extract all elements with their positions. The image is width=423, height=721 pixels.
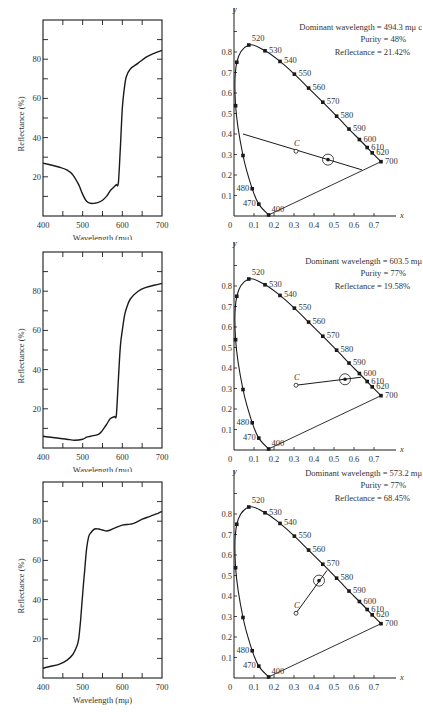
- wavelength-marker: [278, 522, 282, 526]
- reflectance-text: Reflectance = 21.42%: [335, 47, 410, 57]
- y-tick-label: 0.8: [221, 47, 232, 57]
- wavelength-label: 540: [284, 55, 297, 65]
- wavelength-marker: [365, 380, 369, 384]
- y-tick-label: 20: [33, 172, 42, 182]
- y-axis-title: Reflectance (%): [16, 328, 26, 383]
- wavelength-marker: [370, 151, 374, 155]
- y-tick-label: 0.7: [221, 302, 232, 312]
- wavelength-marker: [347, 361, 351, 365]
- wavelength-marker: [250, 649, 254, 653]
- y-tick-label: 20: [33, 404, 42, 414]
- wavelength-marker: [379, 622, 383, 626]
- reflectance-curve: [43, 511, 162, 668]
- wavelength-marker: [278, 294, 282, 298]
- purple-line: [269, 162, 381, 215]
- y-axis-label: y: [232, 4, 237, 14]
- wavelength-marker: [235, 522, 239, 526]
- dominant-wavelength-line: [296, 570, 327, 613]
- wavelength-marker: [321, 562, 325, 566]
- x-tick-label: 0.2: [269, 220, 280, 230]
- y-tick-label: 0.5: [221, 109, 232, 119]
- x-tick-label: 600: [116, 682, 129, 692]
- y-tick-label: 0.1: [221, 653, 232, 663]
- y-axis-title: Reflectance (%): [16, 96, 26, 151]
- y-axis-label: y: [232, 466, 237, 476]
- x-tick-label: 0.6: [349, 220, 360, 230]
- purity-text: Purity = 77%: [361, 480, 406, 490]
- wavelength-marker: [235, 60, 239, 64]
- dominant-wavelength-text: Dominant wavelength = 494.3 mμ c: [299, 22, 422, 32]
- x-tick-label: 500: [76, 682, 89, 692]
- y-tick-label: 0.7: [221, 530, 232, 540]
- wavelength-marker: [335, 114, 339, 118]
- wavelength-marker: [257, 436, 261, 440]
- y-axis-title: Reflectance (%): [16, 558, 26, 613]
- x-tick-label: 0.6: [349, 682, 360, 692]
- wavelength-label: 480: [236, 183, 249, 193]
- chromaticity-diagram-3-svg: yx00.10.20.30.40.50.60.70.10.20.30.40.50…: [210, 462, 423, 721]
- wavelength-label: 590: [353, 585, 366, 595]
- wavelength-marker: [263, 283, 267, 287]
- wavelength-marker: [347, 589, 351, 593]
- wavelength-label: 570: [327, 96, 340, 106]
- x-tick-label: 400: [37, 452, 50, 462]
- wavelength-marker: [321, 334, 325, 338]
- y-tick-label: 0.8: [221, 509, 232, 519]
- wavelength-marker: [241, 388, 245, 392]
- wavelength-marker: [235, 294, 239, 298]
- wavelength-marker: [335, 576, 339, 580]
- wavelength-marker: [257, 664, 261, 668]
- wavelength-label: 580: [341, 572, 354, 582]
- y-tick-label: 0.3: [221, 384, 232, 394]
- wavelength-marker: [278, 60, 282, 64]
- dominant-wavelength-line: [296, 377, 361, 385]
- x-tick-label: 0.2: [269, 682, 280, 692]
- purity-text: Purity = 48%: [361, 34, 406, 44]
- illuminant-c-marker: [294, 611, 298, 615]
- wavelength-marker: [247, 43, 251, 47]
- wavelength-marker: [293, 534, 297, 538]
- wavelength-label: 520: [252, 495, 265, 505]
- wavelength-label: 560: [313, 82, 326, 92]
- wavelength-label: 470: [243, 660, 256, 670]
- wavelength-marker: [247, 505, 251, 509]
- wavelength-label: 480: [236, 645, 249, 655]
- wavelength-label: 530: [269, 279, 282, 289]
- y-axis-label: y: [232, 238, 237, 248]
- purple-line: [269, 624, 381, 677]
- wavelength-marker: [267, 447, 271, 451]
- wavelength-marker: [307, 86, 311, 90]
- wavelength-marker: [241, 616, 245, 620]
- y-tick-label: 80: [33, 516, 42, 526]
- y-tick-label: 40: [33, 365, 42, 375]
- illuminant-c-marker: [294, 383, 298, 387]
- y-tick-label: 0.6: [221, 88, 232, 98]
- wavelength-marker: [250, 187, 254, 191]
- wavelength-label: 560: [313, 544, 326, 554]
- plot-frame: [43, 252, 162, 448]
- y-tick-label: 40: [33, 133, 42, 143]
- y-tick-label: 0.1: [221, 425, 232, 435]
- wavelength-marker: [241, 154, 245, 158]
- wavelength-marker: [379, 160, 383, 164]
- sample-point: [317, 579, 321, 583]
- y-tick-label: 0.4: [221, 363, 232, 373]
- x-tick-label: 600: [116, 220, 129, 230]
- y-tick-label: 0.6: [221, 550, 232, 560]
- reflectance-text: Reflectance = 19.58%: [335, 281, 410, 291]
- y-tick-label: 0.5: [221, 571, 232, 581]
- x-tick-label: 400: [37, 220, 50, 230]
- sample-point: [326, 158, 330, 162]
- wavelength-label: 590: [353, 123, 366, 133]
- wavelength-marker: [247, 277, 251, 281]
- wavelength-label: 520: [252, 267, 265, 277]
- reflectance-chart-2-svg: 40050060070020406080Wavelength (mμ)Refle…: [0, 232, 210, 472]
- reflectance-chart-3: 40050060070020406080Wavelength (mμ)Refle…: [0, 462, 210, 721]
- illuminant-c-label: C: [294, 600, 300, 610]
- wavelength-label: 560: [313, 316, 326, 326]
- y-tick-label: 0.8: [221, 281, 232, 291]
- wavelength-label: 400: [272, 666, 285, 676]
- wavelength-marker: [263, 49, 267, 53]
- x-tick-label: 400: [37, 682, 50, 692]
- x-axis-label: x: [399, 672, 404, 682]
